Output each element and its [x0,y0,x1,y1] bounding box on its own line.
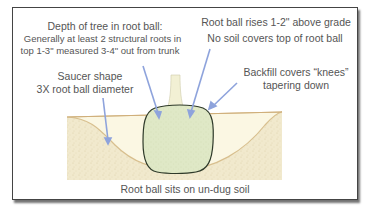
root-ball [143,105,213,174]
saucer-label-line1: Saucer shape [35,70,145,83]
arrow-backfill [213,83,237,106]
saucer-label-line2: 3X root ball diameter [25,83,145,96]
backfill-label-line2: tapering down [256,79,336,92]
backfill-label-line1: Backfill covers “knees” [236,66,356,79]
depth-title: Depth of tree in root ball: [40,20,170,33]
arrow-rises [191,49,210,112]
rises-label: Root ball rises 1-2" above grade [196,16,356,29]
depth-line2: top 1-3" measured 3-4" out from trunk [15,45,185,57]
bottom-label: Root ball sits on un-dug soil [100,183,270,196]
arrow-depth [143,66,158,113]
no-soil-label: No soil covers top of root ball [200,32,350,45]
depth-line1: Generally at least 2 structural roots in [20,33,185,45]
